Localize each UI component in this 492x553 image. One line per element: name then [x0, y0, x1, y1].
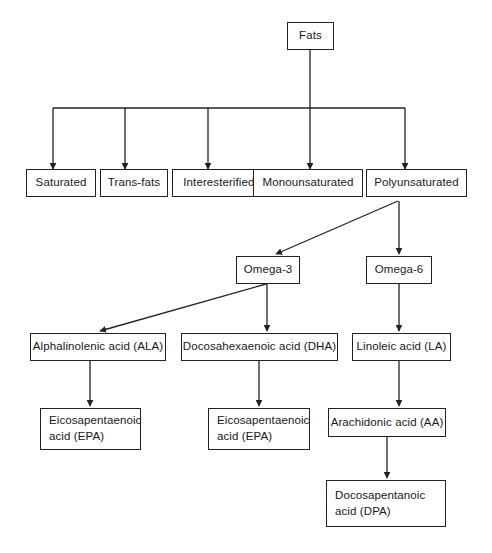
node-trans-fats[interactable]: Trans-fats	[100, 169, 168, 197]
node-linoleic-acid[interactable]: Linoleic acid (LA)	[352, 333, 451, 361]
node-saturated[interactable]: Saturated	[26, 169, 96, 197]
node-omega-6-label: Omega-6	[375, 262, 424, 278]
node-docosahexaenoic-acid-label: Docosahexaenoic acid (DHA)	[183, 339, 336, 355]
node-alphalinolenic-acid-label: Alphalinolenic acid (ALA)	[33, 339, 163, 355]
edge-polyunsaturated-omega3	[276, 201, 398, 254]
node-monounsaturated-label: Monounsaturated	[262, 175, 353, 191]
node-trans-fats-label: Trans-fats	[108, 175, 160, 191]
flowchart-canvas: Fats Saturated Trans-fats Interesterifie…	[0, 0, 492, 553]
node-alphalinolenic-acid[interactable]: Alphalinolenic acid (ALA)	[30, 333, 166, 361]
node-arachidonic-acid-label: Arachidonic acid (AA)	[331, 415, 444, 431]
node-polyunsaturated[interactable]: Polyunsaturated	[366, 169, 467, 197]
node-fats[interactable]: Fats	[287, 22, 334, 50]
edge-omega3-ala	[100, 284, 266, 331]
node-arachidonic-acid[interactable]: Arachidonic acid (AA)	[328, 408, 446, 437]
node-fats-label: Fats	[299, 28, 322, 44]
node-omega-6[interactable]: Omega-6	[366, 256, 432, 284]
node-polyunsaturated-label: Polyunsaturated	[374, 175, 459, 191]
node-docosahexaenoic-acid[interactable]: Docosahexaenoic acid (DHA)	[181, 333, 338, 361]
node-eicosapentaenoic-acid-omega3-ala-label: Eicosapentaenoic acid (EPA)	[49, 413, 141, 444]
node-eicosapentaenoic-acid-omega3-dha[interactable]: Eicosapentaenoic acid (EPA)	[208, 408, 310, 450]
node-omega-3[interactable]: Omega-3	[236, 256, 300, 284]
node-eicosapentaenoic-acid-omega3-ala[interactable]: Eicosapentaenoic acid (EPA)	[40, 408, 141, 450]
node-omega-3-label: Omega-3	[244, 262, 293, 278]
node-saturated-label: Saturated	[36, 175, 87, 191]
node-docosapentanoic-acid[interactable]: Docosapentanoic acid (DPA)	[326, 480, 446, 527]
node-docosapentanoic-acid-label: Docosapentanoic acid (DPA)	[335, 488, 425, 519]
node-eicosapentaenoic-acid-omega3-dha-label: Eicosapentaenoic acid (EPA)	[217, 413, 309, 444]
node-monounsaturated[interactable]: Monounsaturated	[253, 169, 363, 197]
node-linoleic-acid-label: Linoleic acid (LA)	[356, 339, 446, 355]
